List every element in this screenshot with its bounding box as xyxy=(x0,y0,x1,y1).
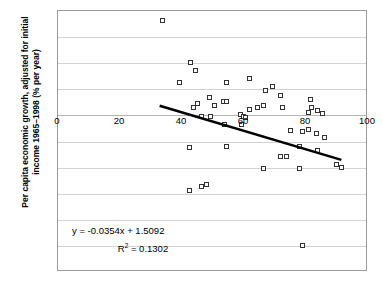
x-tick-label: 20 xyxy=(104,116,134,126)
regression-equation: y = -0.0354x + 1.5092 xyxy=(70,223,240,238)
x-tick-label: 60 xyxy=(228,116,258,126)
y-axis-title-line-2: income 1965–1998 (% per year) xyxy=(31,49,42,175)
r-squared-text: R2 = 0.1302 xyxy=(70,238,240,256)
regression-annotation: y = -0.0354x + 1.5092 R2 = 0.1302 xyxy=(70,223,240,256)
x-tick-label: 100 xyxy=(352,116,382,126)
y-axis-title-line-1: Per capita economic growth, adjusted for… xyxy=(20,16,31,207)
r-squared-exponent: 2 xyxy=(125,242,129,249)
x-tick-label: 40 xyxy=(166,116,196,126)
x-tick-label: 0 xyxy=(42,116,72,126)
r-squared-value: = 0.1302 xyxy=(131,243,168,254)
scatter-chart-figure: Per capita economic growth, adjusted for… xyxy=(0,0,382,289)
r-squared-symbol: R xyxy=(118,243,125,254)
plot-area: y = -0.0354x + 1.5092 R2 = 0.1302 xyxy=(57,10,367,271)
x-tick-label: 80 xyxy=(290,116,320,126)
